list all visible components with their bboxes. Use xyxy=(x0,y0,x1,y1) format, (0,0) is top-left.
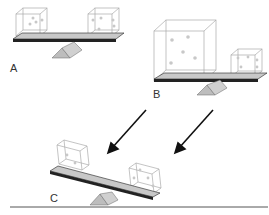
label-a: A xyxy=(10,62,17,74)
seesaw-diagram xyxy=(0,0,269,215)
die-a-left xyxy=(16,8,47,36)
beam-a xyxy=(13,33,124,39)
beam-c xyxy=(50,166,160,197)
label-c: C xyxy=(50,192,58,204)
arrow-right xyxy=(175,110,213,153)
die-b-large xyxy=(154,20,216,81)
beam-b xyxy=(154,73,267,79)
panel-a xyxy=(13,8,124,58)
die-a-right xyxy=(88,8,119,36)
arrow-left xyxy=(108,110,146,153)
panel-b xyxy=(154,20,267,95)
label-b: B xyxy=(153,88,160,100)
panel-c xyxy=(50,140,161,205)
die-c-left xyxy=(57,140,89,170)
